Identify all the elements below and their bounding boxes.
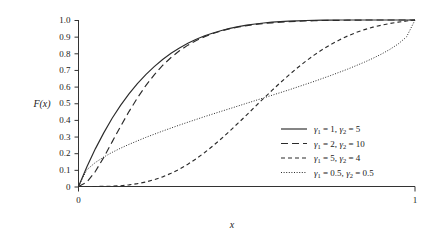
y-tick-label: 0.8 xyxy=(59,49,71,59)
x-tick-label: 0 xyxy=(76,195,81,205)
legend-label-3: γ1 = 0.5, γ2 = 0.5 xyxy=(314,168,374,179)
legend-label-2: γ1 = 5, γ2 = 4 xyxy=(314,153,361,164)
y-tick-label: 0.2 xyxy=(59,148,70,158)
y-tick-label: 0.5 xyxy=(59,98,71,108)
y-tick-label: 0 xyxy=(66,182,71,192)
y-tick-label: 0.6 xyxy=(59,82,71,92)
y-tick-label: 0.1 xyxy=(59,165,70,175)
x-tick-label: 1 xyxy=(413,195,418,205)
chart-figure: F(x) x 1.00.90.80.70.60.50.40.30.20.10 0… xyxy=(0,0,438,236)
y-tick-label: 1.0 xyxy=(59,15,71,25)
y-tick-label: 0.3 xyxy=(59,132,71,142)
legend-label-1: γ1 = 2, γ2 = 10 xyxy=(314,139,365,150)
y-tick-label: 0.4 xyxy=(59,115,71,125)
legend-label-0: γ1 = 1, γ2 = 5 xyxy=(314,124,361,135)
beta-cdf-plot: F(x) x 1.00.90.80.70.60.50.40.30.20.10 0… xyxy=(0,0,438,236)
y-tick-label: 0.7 xyxy=(59,65,71,75)
y-axis-label: F(x) xyxy=(32,98,51,110)
y-tick-label: 0.9 xyxy=(59,32,71,42)
x-axis-label: x xyxy=(229,219,235,230)
